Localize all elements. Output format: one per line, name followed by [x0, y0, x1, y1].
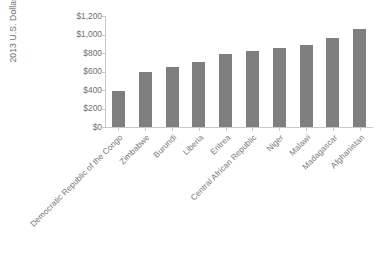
x-axis-tick-label: Eritrea: [84, 133, 232, 258]
x-axis-tick-mark: [145, 128, 146, 131]
y-axis-tick-label: $800: [62, 49, 102, 58]
bar: [246, 51, 259, 127]
bar: [139, 72, 152, 127]
y-axis-tick-mark: [102, 109, 105, 110]
bar: [300, 45, 313, 127]
x-axis-tick-label: Burundi: [31, 133, 179, 258]
bar: [273, 48, 286, 127]
bar: [112, 91, 125, 127]
x-axis-tick-mark: [333, 128, 334, 131]
y-axis-tick-label: $600: [62, 67, 102, 76]
y-axis-tick-label: $0: [62, 123, 102, 132]
y-axis-tick-mark: [102, 90, 105, 91]
x-axis-tick-mark: [226, 128, 227, 131]
bar: [353, 29, 366, 127]
x-axis-tick-label: Madagascar: [191, 133, 339, 258]
x-axis-tick-mark: [172, 128, 173, 131]
y-axis-tick-mark: [102, 53, 105, 54]
x-axis-tick-label: Malawi: [165, 133, 313, 258]
x-axis-tick-mark: [360, 128, 361, 131]
y-axis-tick-label: $400: [62, 86, 102, 95]
x-axis-tick-label: Afghanistan: [218, 133, 366, 258]
y-axis-tick-mark: [102, 127, 105, 128]
y-axis-line: [105, 16, 106, 128]
y-axis-tick-mark: [102, 72, 105, 73]
x-axis-tick-mark: [118, 128, 119, 131]
y-axis-tick-label: $1,000: [62, 30, 102, 39]
bar-chart-figure: 2013 U.S. Dollars $0$200$400$600$800$1,0…: [0, 0, 378, 258]
y-axis-tick-mark: [102, 16, 105, 17]
bar: [219, 54, 232, 127]
x-axis-tick-mark: [252, 128, 253, 131]
x-axis-tick-mark: [279, 128, 280, 131]
bar: [166, 67, 179, 127]
x-axis-tick-mark: [199, 128, 200, 131]
x-axis-tick-label: Niger: [138, 133, 286, 258]
y-axis-tick-labels: $0$200$400$600$800$1,000$1,200: [62, 0, 102, 258]
bar: [192, 62, 205, 127]
y-axis-tick-label: $1,200: [62, 12, 102, 21]
bar: [326, 38, 339, 127]
y-axis-title: 2013 U.S. Dollars: [6, 0, 20, 84]
x-axis-tick-mark: [306, 128, 307, 131]
x-axis-tick-label: Central African Republic: [111, 133, 259, 258]
plot-area: [105, 16, 373, 128]
y-axis-tick-label: $200: [62, 104, 102, 113]
y-axis-tick-mark: [102, 35, 105, 36]
